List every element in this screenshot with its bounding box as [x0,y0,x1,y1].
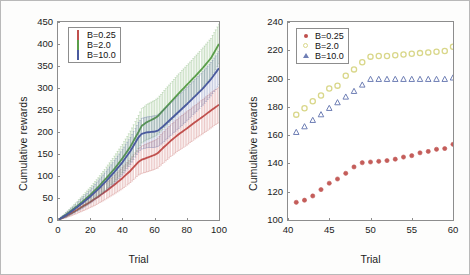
triangle-blue-icon [300,51,313,61]
x-tick-label: 55 [396,224,428,235]
legend-label-b20: B=2.0 [313,41,339,51]
errorbar-blue-icon [72,50,85,60]
y-tick-label: 160 [255,129,283,140]
legend-item-b100: B=10.0 [300,51,344,61]
legend-item-b025: B=0.25 [72,30,116,40]
y-tick-label: 400 [25,38,53,49]
y-tick-mark [57,66,60,67]
errorbar-red-icon [72,30,85,40]
x-tick-mark [219,218,220,221]
dot-red-icon [300,31,313,41]
x-tick-mark [90,218,91,221]
legend-item-b025: B=0.25 [300,31,344,41]
right-legend: B=0.25 B=2.0 B=10.0 [296,28,349,64]
y-tick-mark [57,198,60,199]
y-tick-label: 100 [25,170,53,181]
y-tick-mark [287,163,290,164]
x-tick-mark [329,218,330,221]
x-tick-mark [371,218,372,221]
y-tick-label: 140 [255,157,283,168]
y-tick-label: 450 [25,16,53,27]
legend-item-b20: B=2.0 [300,41,344,51]
y-tick-label: 220 [255,44,283,55]
y-tick-mark [287,50,290,51]
legend-label-b025: B=0.25 [85,30,116,40]
legend-label-b100: B=10.0 [313,51,344,61]
right-x-axis-label: Trial [287,253,454,265]
y-tick-mark [57,22,60,23]
left-legend: B=0.25 B=2.0 B=10.0 [68,27,121,63]
legend-item-b20: B=2.0 [72,40,116,50]
errorbar-green-icon [72,40,85,50]
y-tick-mark [287,135,290,136]
circle-yellow-icon [300,41,313,51]
x-tick-mark [187,218,188,221]
x-tick-label: 40 [272,224,304,235]
x-tick-mark [412,218,413,221]
figure-container: Cumulative rewards 450400350300250200150… [0,0,470,275]
y-tick-label: 200 [255,73,283,84]
y-tick-mark [287,192,290,193]
legend-label-b100: B=10.0 [85,50,116,60]
right-chart-panel: Cumulative rewards 240220200180160140120… [236,1,470,275]
y-tick-mark [287,22,290,23]
x-tick-label: 60 [139,224,171,235]
x-tick-label: 45 [313,224,345,235]
y-tick-mark [57,44,60,45]
y-tick-label: 350 [25,60,53,71]
x-tick-label: 0 [42,224,74,235]
y-tick-mark [57,176,60,177]
y-tick-mark [57,132,60,133]
x-tick-mark [155,218,156,221]
x-tick-mark [288,218,289,221]
x-tick-mark [453,218,454,221]
x-tick-label: 100 [203,224,235,235]
y-tick-label: 200 [25,126,53,137]
x-tick-mark [122,218,123,221]
y-tick-mark [57,88,60,89]
y-tick-mark [57,154,60,155]
series-B025 [294,142,453,204]
y-tick-mark [287,107,290,108]
x-tick-label: 80 [171,224,203,235]
x-tick-label: 20 [74,224,106,235]
y-tick-label: 250 [25,104,53,115]
x-tick-label: 40 [106,224,138,235]
left-x-axis-label: Trial [57,253,220,265]
y-tick-label: 50 [25,192,53,203]
y-tick-label: 180 [255,101,283,112]
legend-label-b025: B=0.25 [313,31,344,41]
x-tick-mark [58,218,59,221]
legend-item-b100: B=10.0 [72,50,116,60]
y-tick-label: 150 [25,148,53,159]
x-tick-label: 60 [437,224,469,235]
y-tick-label: 120 [255,186,283,197]
legend-label-b20: B=2.0 [85,40,111,50]
x-tick-label: 50 [355,224,387,235]
y-tick-label: 240 [255,16,283,27]
left-chart-panel: Cumulative rewards 450400350300250200150… [1,1,236,275]
y-tick-label: 300 [25,82,53,93]
series-B100 [293,75,453,135]
y-tick-mark [57,110,60,111]
y-tick-mark [287,79,290,80]
